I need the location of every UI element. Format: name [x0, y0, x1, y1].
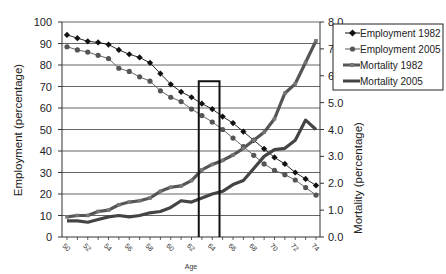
- diamond-marker-icon: [74, 35, 80, 41]
- square-marker-icon: [210, 163, 214, 167]
- legend-item-employment-1982: Employment 1982: [345, 28, 441, 39]
- circle-marker-icon: [220, 127, 225, 132]
- circle-marker-icon: [179, 99, 184, 104]
- square-marker-icon: [200, 168, 204, 172]
- x-tick-label: 58: [144, 242, 155, 253]
- circle-marker-icon: [96, 53, 101, 58]
- circle-marker-icon: [137, 74, 142, 79]
- x-tick-label: 52: [82, 242, 93, 253]
- square-marker-icon: [65, 215, 69, 219]
- circle-marker-icon: [158, 88, 163, 93]
- circle-marker-icon: [282, 172, 287, 177]
- diamond-marker-icon: [105, 41, 111, 47]
- x-tick-label: 60: [165, 242, 176, 253]
- square-marker-icon: [262, 130, 266, 134]
- square-marker-icon: [231, 153, 235, 157]
- diamond-marker-icon: [188, 94, 194, 100]
- circle-marker-icon: [64, 44, 69, 49]
- x-tick-label: 68: [248, 242, 259, 253]
- legend-label: Employment 1982: [360, 28, 441, 39]
- diamond-marker-icon: [313, 182, 319, 188]
- circle-marker-icon: [272, 168, 277, 173]
- square-marker-icon: [96, 210, 100, 214]
- x-tick-label: 74: [310, 242, 321, 253]
- legend-label: Employment 2005: [360, 44, 441, 55]
- diamond-marker-icon: [64, 32, 70, 38]
- circle-marker-icon: [189, 106, 194, 111]
- square-marker-icon: [169, 185, 173, 189]
- legend-item-employment-2005: Employment 2005: [345, 44, 441, 55]
- y-tick-label: 70: [40, 81, 52, 93]
- square-marker-icon: [252, 138, 256, 142]
- circle-marker-icon: [168, 95, 173, 100]
- square-marker-icon: [314, 39, 318, 43]
- square-marker-icon: [159, 190, 163, 194]
- diamond-marker-icon: [95, 39, 101, 45]
- y2-tick-label: 4.0: [328, 124, 343, 136]
- y-tick-label: 60: [40, 102, 52, 114]
- y-tick-label: 0: [46, 231, 52, 243]
- series-employment-2005: [64, 44, 318, 198]
- square-marker-icon: [76, 214, 80, 218]
- x-tick-label: 54: [103, 242, 114, 253]
- circle-marker-icon: [313, 192, 318, 197]
- circle-marker-icon: [75, 47, 80, 52]
- circle-marker-icon: [106, 56, 111, 61]
- x-tick-label: 66: [227, 242, 238, 253]
- diamond-marker-icon: [178, 89, 184, 95]
- y-tick-label: 50: [40, 124, 52, 136]
- circle-marker-icon: [147, 79, 152, 84]
- y2-tick-label: 5.0: [328, 97, 343, 109]
- square-marker-icon: [138, 199, 142, 203]
- square-marker-icon: [242, 147, 246, 151]
- circle-marker-icon: [230, 136, 235, 141]
- x-tick-label: 64: [207, 242, 218, 253]
- square-marker-icon: [148, 196, 152, 200]
- circle-marker-icon: [210, 119, 215, 124]
- x-tick-label: 70: [269, 242, 280, 253]
- diamond-marker-icon: [126, 51, 132, 57]
- y-tick-label: 10: [40, 210, 52, 222]
- circle-marker-icon: [303, 185, 308, 190]
- series-line: [67, 120, 316, 222]
- y-tick-label: 90: [40, 38, 52, 50]
- x-tick-label: 72: [290, 242, 301, 253]
- diamond-marker-icon: [137, 54, 143, 60]
- y2-tick-label: 1.0: [328, 204, 343, 216]
- series-mortality-2005: [67, 120, 316, 222]
- square-marker-icon: [350, 63, 354, 67]
- right-axis-title: Mortality (percentage): [352, 122, 364, 234]
- diamond-marker-icon: [303, 176, 309, 182]
- legend-label: Mortality 1982: [360, 60, 423, 71]
- square-marker-icon: [283, 91, 287, 95]
- circle-marker-icon: [127, 69, 132, 74]
- circle-marker-icon: [116, 66, 121, 71]
- circle-marker-icon: [85, 50, 90, 55]
- y-tick-label: 20: [40, 188, 52, 200]
- chart: 01020304050607080901000.01.02.03.04.05.0…: [0, 0, 446, 274]
- diamond-marker-icon: [116, 47, 122, 53]
- x-axis-title: Age: [185, 263, 198, 271]
- circle-marker-icon: [262, 161, 267, 166]
- y2-tick-label: 2.0: [328, 177, 343, 189]
- y-tick-label: 40: [40, 145, 52, 157]
- square-marker-icon: [273, 117, 277, 121]
- x-tick-label: 56: [124, 242, 135, 253]
- y2-tick-label: 0.0: [328, 231, 343, 243]
- square-marker-icon: [86, 214, 90, 218]
- legend-label: Mortality 2005: [360, 76, 423, 87]
- square-marker-icon: [179, 184, 183, 188]
- square-marker-icon: [304, 61, 308, 65]
- circle-marker-icon: [251, 153, 256, 158]
- circle-marker-icon: [199, 113, 204, 118]
- y2-tick-label: 3.0: [328, 150, 343, 162]
- square-marker-icon: [221, 159, 225, 163]
- series-mortality-1982: [65, 39, 318, 219]
- left-axis-title: Employment (percentage): [12, 64, 24, 196]
- x-tick-label: 62: [186, 242, 197, 253]
- square-marker-icon: [293, 82, 297, 86]
- series-line: [67, 41, 316, 217]
- y-tick-label: 80: [40, 59, 52, 71]
- circle-marker-icon: [293, 177, 298, 182]
- circle-marker-icon: [350, 46, 355, 51]
